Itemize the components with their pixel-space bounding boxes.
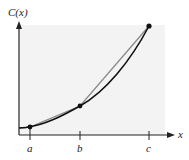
cost-function-diagram: C(x) x a b c	[0, 0, 189, 160]
tick-label-c: c	[146, 142, 151, 154]
point-c	[146, 23, 151, 28]
x-axis-label: x	[177, 128, 183, 140]
plot-background	[20, 25, 165, 135]
point-a	[28, 125, 33, 130]
y-axis-label: C(x)	[8, 6, 28, 19]
tick-label-a: a	[27, 142, 33, 154]
tick-label-b: b	[77, 142, 83, 154]
point-b	[78, 104, 83, 109]
x-axis-arrow-icon	[167, 132, 175, 138]
